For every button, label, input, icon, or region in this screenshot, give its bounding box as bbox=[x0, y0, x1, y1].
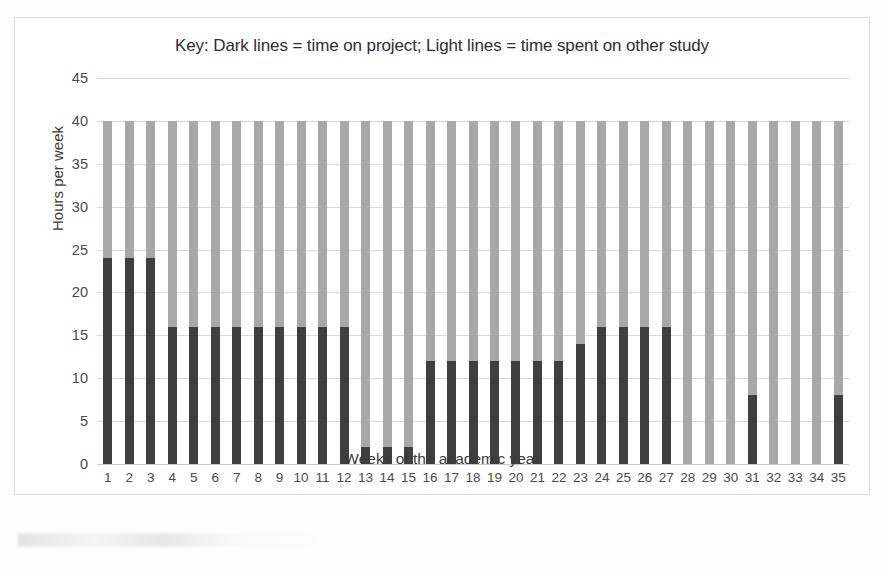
bar-segment-project bbox=[297, 327, 306, 464]
bar-column[interactable] bbox=[791, 78, 800, 464]
bar-column[interactable] bbox=[576, 78, 585, 464]
bar-column[interactable] bbox=[554, 78, 563, 464]
bar-segment-project bbox=[640, 327, 649, 464]
bar-segment-project bbox=[576, 344, 585, 464]
x-axis-tick-label: 4 bbox=[168, 470, 176, 485]
x-axis-tick-label: 1 bbox=[104, 470, 112, 485]
x-axis-tick-label: 2 bbox=[125, 470, 133, 485]
bar-segment-project bbox=[533, 361, 542, 464]
y-axis-tick-label: 10 bbox=[72, 370, 88, 386]
x-axis-tick-label: 13 bbox=[358, 470, 373, 485]
bar-column[interactable] bbox=[705, 78, 714, 464]
bar-column[interactable] bbox=[683, 78, 692, 464]
x-axis-tick-label: 23 bbox=[573, 470, 588, 485]
bar-segment-other-study bbox=[812, 121, 821, 464]
bar-column[interactable] bbox=[189, 78, 198, 464]
x-axis-tick-label: 35 bbox=[831, 470, 846, 485]
bar-column[interactable] bbox=[812, 78, 821, 464]
y-axis-tick-label: 25 bbox=[72, 242, 88, 258]
bar-column[interactable] bbox=[640, 78, 649, 464]
bar-column[interactable] bbox=[146, 78, 155, 464]
bar-column[interactable] bbox=[232, 78, 241, 464]
bar-column[interactable] bbox=[275, 78, 284, 464]
plot-area: 051015202530354045 123456789101112131415… bbox=[97, 78, 849, 464]
x-axis-tick-label: 19 bbox=[487, 470, 502, 485]
bar-segment-other-study bbox=[361, 121, 370, 464]
bar-segment-project bbox=[597, 327, 606, 464]
bar-segment-project bbox=[168, 327, 177, 464]
bar-segment-project bbox=[275, 327, 284, 464]
bar-column[interactable] bbox=[748, 78, 757, 464]
bar-column[interactable] bbox=[511, 78, 520, 464]
x-axis-tick-label: 10 bbox=[294, 470, 309, 485]
bar-column[interactable] bbox=[426, 78, 435, 464]
bar-column[interactable] bbox=[125, 78, 134, 464]
x-axis-tick-label: 6 bbox=[211, 470, 219, 485]
bar-segment-project bbox=[554, 361, 563, 464]
bar-column[interactable] bbox=[318, 78, 327, 464]
bar-segment-other-study bbox=[705, 121, 714, 464]
bar-column[interactable] bbox=[469, 78, 478, 464]
y-axis-tick-label: 35 bbox=[72, 156, 88, 172]
x-axis-tick-label: 15 bbox=[401, 470, 416, 485]
bar-column[interactable] bbox=[619, 78, 628, 464]
bar-segment-project bbox=[447, 361, 456, 464]
x-axis-tick-label: 24 bbox=[594, 470, 609, 485]
bar-segment-project bbox=[511, 361, 520, 464]
bar-column[interactable] bbox=[726, 78, 735, 464]
bar-column[interactable] bbox=[769, 78, 778, 464]
x-axis-tick-label: 33 bbox=[788, 470, 803, 485]
bar-segment-project bbox=[426, 361, 435, 464]
y-axis-tick-label: 30 bbox=[72, 199, 88, 215]
x-axis-tick-label: 8 bbox=[254, 470, 262, 485]
bar-segment-project bbox=[211, 327, 220, 464]
bar-column[interactable] bbox=[383, 78, 392, 464]
bar-column[interactable] bbox=[103, 78, 112, 464]
screenshot-root: Key: Dark lines = time on project; Light… bbox=[0, 0, 888, 576]
bar-column[interactable] bbox=[361, 78, 370, 464]
x-axis-tick-label: 20 bbox=[508, 470, 523, 485]
x-axis-tick-label: 28 bbox=[680, 470, 695, 485]
bar-column[interactable] bbox=[597, 78, 606, 464]
bar-column[interactable] bbox=[168, 78, 177, 464]
bar-column[interactable] bbox=[834, 78, 843, 464]
bar-column[interactable] bbox=[404, 78, 413, 464]
bar-column[interactable] bbox=[254, 78, 263, 464]
bar-segment-project bbox=[103, 258, 112, 464]
bar-segment-other-study bbox=[404, 121, 413, 464]
y-axis-title: Hours per week bbox=[49, 99, 66, 259]
chart-title: Key: Dark lines = time on project; Light… bbox=[15, 36, 869, 56]
bar-column[interactable] bbox=[340, 78, 349, 464]
bar-segment-project bbox=[662, 327, 671, 464]
chart-figure: Key: Dark lines = time on project; Light… bbox=[14, 17, 870, 495]
x-axis-tick-label: 7 bbox=[233, 470, 241, 485]
x-axis-tick-label: 18 bbox=[465, 470, 480, 485]
bar-segment-project bbox=[340, 327, 349, 464]
x-axis-tick-label: 27 bbox=[659, 470, 674, 485]
x-axis-tick-label: 26 bbox=[637, 470, 652, 485]
bar-segment-other-study bbox=[791, 121, 800, 464]
x-axis-tick-label: 32 bbox=[766, 470, 781, 485]
bar-segment-project bbox=[125, 258, 134, 464]
bar-column[interactable] bbox=[490, 78, 499, 464]
x-axis-tick-label: 31 bbox=[745, 470, 760, 485]
x-axis-tick-label: 29 bbox=[702, 470, 717, 485]
y-axis-tick-label: 20 bbox=[72, 284, 88, 300]
y-axis-tick-label: 45 bbox=[72, 70, 88, 86]
x-axis-tick-label: 5 bbox=[190, 470, 198, 485]
bar-segment-project bbox=[318, 327, 327, 464]
x-axis-tick-label: 22 bbox=[551, 470, 566, 485]
x-axis-tick-label: 30 bbox=[723, 470, 738, 485]
bar-column[interactable] bbox=[533, 78, 542, 464]
bar-segment-other-study bbox=[683, 121, 692, 464]
x-axis-tick-label: 12 bbox=[337, 470, 352, 485]
x-axis-tick-label: 16 bbox=[423, 470, 438, 485]
x-axis-tick-label: 11 bbox=[316, 470, 330, 485]
x-axis-tick-label: 9 bbox=[276, 470, 284, 485]
bar-segment-project bbox=[232, 327, 241, 464]
bar-column[interactable] bbox=[662, 78, 671, 464]
bar-segment-other-study bbox=[726, 121, 735, 464]
bar-column[interactable] bbox=[211, 78, 220, 464]
bar-column[interactable] bbox=[447, 78, 456, 464]
bar-column[interactable] bbox=[297, 78, 306, 464]
